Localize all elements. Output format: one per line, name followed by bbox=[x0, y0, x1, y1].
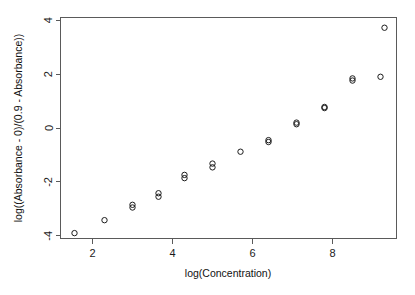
data-point bbox=[72, 230, 77, 235]
y-tick-label: -2 bbox=[43, 177, 55, 187]
data-point bbox=[210, 161, 215, 166]
x-axis-label: log(Concentration) bbox=[185, 267, 271, 279]
data-point bbox=[156, 191, 161, 196]
y-tick-label: -4 bbox=[43, 231, 55, 241]
scatter-plot-figure: 2468 -4-2024 log(Concentration) log((Abs… bbox=[0, 0, 415, 295]
plot-frame bbox=[61, 18, 397, 239]
y-tick-label: 2 bbox=[43, 71, 55, 77]
data-point bbox=[382, 25, 387, 30]
x-tick-label: 8 bbox=[329, 247, 335, 259]
y-tick-label: 4 bbox=[43, 17, 55, 23]
plot-border bbox=[61, 18, 397, 239]
plot-canvas: 2468 -4-2024 log(Concentration) log((Abs… bbox=[0, 0, 415, 295]
y-tick-label: 0 bbox=[43, 125, 55, 131]
y-axis-label: log((Absorbance - 0)/(0.9 - Absorbance)) bbox=[12, 34, 24, 223]
x-axis-ticks: 2468 bbox=[89, 239, 335, 259]
x-tick-label: 6 bbox=[249, 247, 255, 259]
x-tick-label: 4 bbox=[169, 247, 175, 259]
data-point bbox=[238, 149, 243, 154]
data-point bbox=[102, 217, 107, 222]
data-point bbox=[182, 172, 187, 177]
x-tick-label: 2 bbox=[89, 247, 95, 259]
data-point bbox=[378, 74, 383, 79]
data-points-layer bbox=[72, 25, 387, 236]
y-axis-ticks: -4-2024 bbox=[43, 17, 61, 241]
